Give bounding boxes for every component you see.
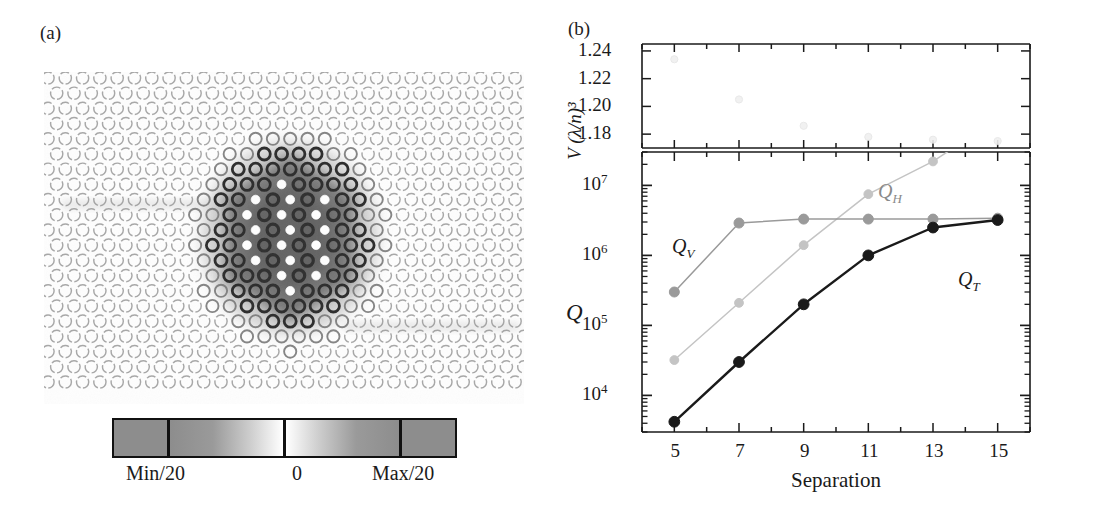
panel-a-mode-profile-image: [44, 72, 524, 404]
separation-axis-label: Separation: [776, 468, 896, 493]
colorbar-segment-min-to-zero: [170, 420, 283, 456]
colorbar-label-zero: 0: [292, 462, 302, 485]
colorbar-label-min: Min/20: [126, 462, 185, 485]
colorbar-segment-saturated-max: [402, 420, 455, 456]
q-ytick-label: 107: [582, 171, 608, 195]
series-label-q-t: QT: [958, 268, 980, 295]
q-axis-label: Q: [566, 300, 583, 326]
colorbar-container: [112, 418, 457, 458]
panel-a-label: (a): [40, 22, 61, 44]
separation-xtick-label: 11: [858, 440, 880, 462]
q-ytick-label: 104: [582, 381, 608, 405]
figure-root: (a) Min/20 0 Max/20 (b) V (λ/n)³ Q 1.241…: [0, 0, 1098, 511]
panel-b-charts: V (λ/n)³ Q 1.241.221.201.181041051061075…: [560, 20, 1098, 511]
mode-volume-ytick-label: 1.22: [578, 67, 611, 89]
colorbar-tick-labels: Min/20 0 Max/20: [100, 462, 470, 488]
field-amplitude-colorbar: [112, 418, 457, 458]
photonic-crystal-lattice-svg: [44, 72, 524, 404]
separation-xtick-label: 5: [664, 440, 686, 462]
colorbar-segment-saturated-min: [114, 420, 167, 456]
mode-volume-ytick-label: 1.18: [578, 122, 611, 144]
series-label-q-v: QV: [672, 235, 694, 262]
q-ytick-label: 105: [582, 311, 608, 335]
separation-xtick-label: 9: [794, 440, 816, 462]
colorbar-segment-zero-to-max: [286, 420, 399, 456]
separation-xtick-label: 13: [923, 440, 945, 462]
mode-volume-ytick-label: 1.20: [578, 94, 611, 116]
series-label-q-h: QH: [878, 180, 902, 207]
colorbar-label-max: Max/20: [372, 462, 434, 485]
separation-xtick-label: 7: [729, 440, 751, 462]
photonic-crystal-image: [44, 72, 524, 404]
mode-volume-ytick-label: 1.24: [578, 39, 611, 61]
chart-axes-and-series-svg: [560, 20, 1098, 511]
q-ytick-label: 106: [582, 241, 608, 265]
separation-xtick-label: 15: [988, 440, 1010, 462]
